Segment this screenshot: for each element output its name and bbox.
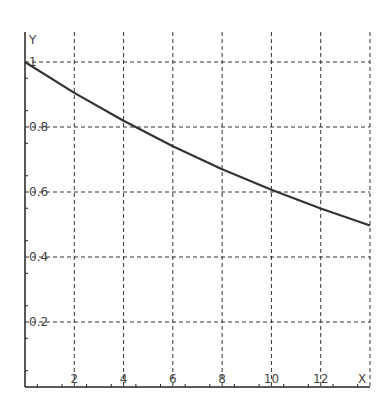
- line-chart: 246810120.20.40.60.81YX: [0, 0, 390, 416]
- y-tick-label: 0.6: [29, 185, 48, 199]
- x-tick-label: 4: [120, 372, 128, 386]
- y-tick-label: 0.8: [29, 120, 48, 134]
- data-curve: [25, 62, 370, 225]
- x-tick-label: 8: [218, 372, 226, 386]
- x-tick-label: 10: [264, 372, 279, 386]
- x-axis-label: X: [358, 372, 366, 386]
- y-tick-label: 0.4: [29, 250, 48, 264]
- x-tick-label: 2: [70, 372, 78, 386]
- x-tick-label: 12: [313, 372, 328, 386]
- x-tick-label: 6: [169, 372, 177, 386]
- y-tick-label: 0.2: [29, 315, 48, 329]
- y-axis-label: Y: [28, 33, 37, 47]
